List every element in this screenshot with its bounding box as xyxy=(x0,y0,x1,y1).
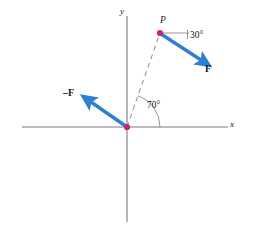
vector-negative-F-label: –F xyxy=(63,88,74,98)
diagram-canvas xyxy=(0,0,257,244)
vector-F-label: F xyxy=(205,64,211,74)
origin-point-marker xyxy=(124,124,130,130)
vector-negative-F-arrow xyxy=(91,102,127,127)
y-axis-label: y xyxy=(120,7,124,16)
angle-70-label: 70° xyxy=(147,101,160,111)
dashed-ray-origin-to-P xyxy=(127,33,160,127)
angle-30-label: 30° xyxy=(190,31,203,41)
force-vector-diagram: y x P F –F 30° 70° xyxy=(0,0,257,244)
point-P-marker xyxy=(157,30,163,36)
point-P-label: P xyxy=(160,16,166,26)
x-axis-label: x xyxy=(230,120,234,129)
